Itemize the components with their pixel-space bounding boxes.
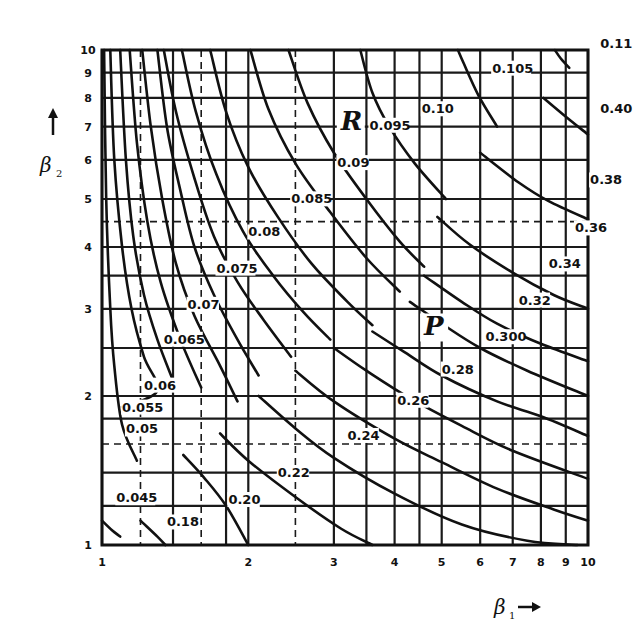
contour-label-p: 0.40 bbox=[600, 101, 632, 116]
contour-label-p: 0.34 bbox=[549, 256, 581, 271]
contour-label-p: 0.300 bbox=[485, 329, 526, 344]
contour-label-r: 0.05 bbox=[126, 421, 158, 436]
y-axis-symbol: β bbox=[39, 153, 52, 177]
contour-p-0.22 bbox=[220, 434, 372, 546]
y-tick-label: 9 bbox=[84, 67, 92, 80]
contour-chart: 0.0450.050.0550.180.060.200.0650.220.070… bbox=[0, 0, 637, 626]
y-tick-label: 3 bbox=[84, 303, 92, 316]
contour-label-r: 0.10 bbox=[422, 101, 454, 116]
contour-label-p: 0.28 bbox=[442, 362, 474, 377]
contour-label-r: 0.06 bbox=[144, 378, 176, 393]
y-tick-label: 4 bbox=[84, 241, 92, 254]
x-tick-label: 2 bbox=[244, 556, 252, 569]
y-axis-arrowhead-icon bbox=[48, 108, 58, 118]
contour-label-r: 0.095 bbox=[369, 118, 410, 133]
contour-label-p: 0.26 bbox=[397, 393, 429, 408]
region-label-r: R bbox=[340, 106, 363, 136]
x-tick-label: 8 bbox=[537, 556, 545, 569]
x-tick-label: 4 bbox=[391, 556, 399, 569]
contour-r-0.085 bbox=[210, 50, 372, 325]
x-axis-arrowhead-icon bbox=[532, 602, 541, 612]
y-tick-label: 7 bbox=[84, 121, 92, 134]
contour-label-p: 0.36 bbox=[575, 220, 607, 235]
x-tick-label: 6 bbox=[476, 556, 484, 569]
contour-label-r: 0.085 bbox=[291, 191, 332, 206]
contour-label-p: 0.24 bbox=[348, 428, 380, 443]
contour-label-p: 0.22 bbox=[278, 465, 310, 480]
x-axis-symbol: β bbox=[493, 595, 506, 619]
y-axis-subscript: 2 bbox=[56, 168, 62, 179]
contour-r-0.11 bbox=[555, 50, 569, 68]
x-tick-label: 1 bbox=[98, 556, 106, 569]
y-tick-label: 6 bbox=[84, 154, 92, 167]
y-tick-label: 8 bbox=[84, 92, 92, 105]
contour-label-r: 0.055 bbox=[122, 400, 163, 415]
contour-label-r: 0.09 bbox=[337, 155, 369, 170]
contour-label-r: 0.065 bbox=[164, 332, 205, 347]
x-axis-label: β 1 bbox=[493, 595, 541, 621]
contour-label-p: 0.32 bbox=[519, 293, 551, 308]
contour-label-r: 0.07 bbox=[188, 297, 220, 312]
contour-label-r: 0.075 bbox=[216, 261, 257, 276]
contour-labels: 0.0450.050.0550.180.060.200.0650.220.070… bbox=[115, 36, 632, 530]
contour-label-r: 0.08 bbox=[248, 224, 280, 239]
x-axis-subscript: 1 bbox=[509, 610, 515, 621]
contour-label-r: 0.11 bbox=[600, 36, 632, 51]
contour-label-r: 0.045 bbox=[116, 490, 157, 505]
contour-label-p: 0.18 bbox=[167, 514, 199, 529]
x-tick-label: 3 bbox=[330, 556, 338, 569]
y-tick-label: 10 bbox=[80, 44, 96, 57]
contour-p-0.18 bbox=[141, 521, 166, 545]
contour-label-p: 0.38 bbox=[590, 172, 622, 187]
y-tick-label: 2 bbox=[84, 390, 92, 403]
region-label-p: P bbox=[423, 311, 445, 341]
x-tick-label: 7 bbox=[509, 556, 517, 569]
y-tick-label: 1 bbox=[84, 539, 92, 552]
y-tick-label: 5 bbox=[84, 193, 92, 206]
x-tick-label: 5 bbox=[438, 556, 446, 569]
x-tick-label: 9 bbox=[562, 556, 570, 569]
contour-r-0.09 bbox=[250, 50, 399, 292]
contour-p-0.38 bbox=[480, 153, 588, 220]
contour-label-r: 0.105 bbox=[492, 61, 533, 76]
contour-p-0.045 bbox=[102, 521, 120, 537]
contour-label-p: 0.20 bbox=[228, 492, 260, 507]
x-tick-label: 10 bbox=[580, 556, 596, 569]
y-axis-label: β 2 bbox=[39, 108, 62, 179]
